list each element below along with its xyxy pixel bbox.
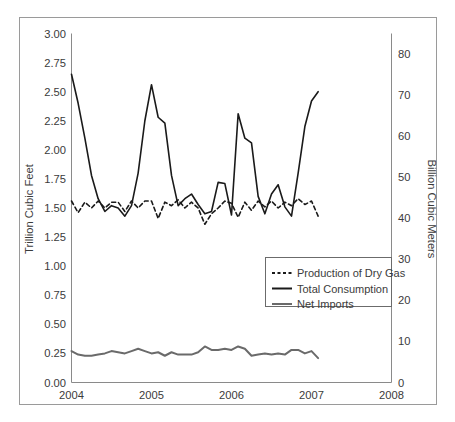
legend-entry-label: Production of Dry Gas [297,267,406,279]
y-axis-right-tick: 60 [398,130,410,142]
y-axis-left-tick: 2.00 [44,144,66,156]
y-axis-right-tick: 0 [398,377,404,389]
y-axis-left-tick: 0.50 [44,318,66,330]
y-axis-left-tick: 1.50 [44,202,66,214]
x-axis-tick: 2004 [59,389,84,401]
y-axis-left-tick: 1.75 [44,173,66,185]
y-axis-right-tick: 10 [398,335,410,347]
x-axis-tick: 2008 [379,389,404,401]
legend-entry-label: Total Consumption [297,283,388,295]
y-axis-left-tick: 1.00 [44,260,66,272]
x-axis-tick: 2006 [219,389,244,401]
y-axis-right-tick: 50 [398,171,410,183]
chart-legend: Production of Dry GasTotal ConsumptionNe… [266,258,406,311]
y-axis-right-tick-labels: 01020304050607080 [398,48,410,388]
y-axis-right-tick: 20 [398,294,410,306]
y-axis-left-tick: 2.25 [44,115,66,127]
y-axis-left-tick: 0.75 [44,289,66,301]
y-axis-right-title: Billion Cubic Meters [426,160,438,259]
y-axis-left-title: Trillion Cubic Feet [23,163,35,254]
chart-figure: 0.000.250.500.751.001.251.501.752.002.25… [0,0,455,422]
y-axis-left-tick: 0.25 [44,347,66,359]
y-axis-left-tick: 2.50 [44,86,66,98]
y-axis-right-tick: 70 [398,89,410,101]
y-axis-left-tick: 0.00 [44,377,66,389]
x-axis-tick: 2007 [299,389,324,401]
y-axis-left-tick: 2.75 [44,57,66,69]
figure-background [0,0,455,422]
y-axis-left-tick: 1.25 [44,231,66,243]
x-axis-tick: 2005 [139,389,164,401]
y-axis-left-tick: 3.00 [44,28,66,40]
y-axis-right-tick: 80 [398,48,410,60]
y-axis-right-tick: 30 [398,253,410,265]
y-axis-right-tick: 40 [398,212,410,224]
legend-entry-label: Net Imports [297,298,354,310]
